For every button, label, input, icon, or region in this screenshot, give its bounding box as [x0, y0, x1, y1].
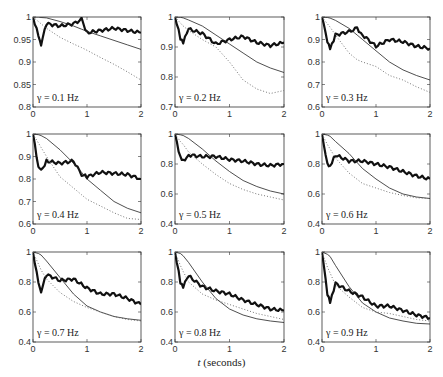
y-tick-label: 0.6: [18, 219, 31, 229]
x-tick-label: 0: [172, 344, 177, 354]
y-tick-label: 0.7: [18, 197, 31, 207]
y-tick-label: 0.8: [18, 174, 31, 184]
x-tick-label: 2: [427, 109, 432, 119]
y-tick-label: 0.4: [18, 337, 31, 347]
y-tick-label: 0.6: [160, 189, 173, 199]
x-tick-label: 0: [172, 226, 177, 236]
y-tick-label: 0.4: [160, 219, 173, 229]
y-tick-label: 0.4: [160, 337, 173, 347]
y-tick-label: 1: [168, 12, 173, 22]
x-tick-label: 0: [30, 226, 35, 236]
y-tick-label: 1: [26, 247, 31, 257]
y-tick-label: 0.9: [18, 57, 31, 67]
y-tick-label: 0.8: [18, 277, 31, 287]
y-tick-label: 0.8: [307, 57, 320, 67]
gamma-label: γ = 0.9 Hz: [325, 327, 368, 338]
y-tick-label: 0.9: [307, 35, 320, 45]
gamma-label: γ = 0.7 Hz: [36, 327, 79, 338]
x-tick-label: 0: [30, 344, 35, 354]
y-tick-label: 0.7: [307, 80, 320, 90]
y-tick-label: 0.6: [307, 189, 320, 199]
subplot-grid: 0120.80.850.90.951γ = 0.1 Hz0120.70.80.9…: [0, 0, 443, 377]
y-tick-label: 0.4: [307, 337, 320, 347]
x-tick-label: 1: [227, 226, 232, 236]
subplot-1: 0120.80.850.90.951γ = 0.1 Hz: [13, 12, 143, 119]
x-axis-label: t (seconds): [0, 356, 443, 368]
subplot-4: 0120.60.70.80.91γ = 0.4 Hz: [18, 129, 143, 236]
y-tick-label: 0.85: [13, 80, 31, 90]
x-tick-label: 0: [319, 226, 324, 236]
y-tick-label: 0.8: [160, 277, 173, 287]
x-tick-label: 2: [138, 226, 143, 236]
x-tick-label: 0: [172, 109, 177, 119]
y-tick-label: 0.6: [18, 307, 31, 317]
y-tick-label: 1: [168, 129, 173, 139]
x-tick-label: 2: [281, 226, 286, 236]
subplot-8: 0120.40.60.81γ = 0.8 Hz: [160, 247, 286, 354]
subplot-7: 0120.40.60.81γ = 0.7 Hz: [18, 247, 143, 354]
subplot-9: 0120.40.60.81γ = 0.9 Hz: [307, 247, 432, 354]
gamma-label: γ = 0.5 Hz: [178, 209, 221, 220]
y-tick-label: 0.9: [160, 42, 173, 52]
figure: 0120.80.850.90.951γ = 0.1 Hz0120.70.80.9…: [0, 0, 443, 377]
y-tick-label: 1: [315, 12, 320, 22]
x-tick-label: 1: [84, 109, 89, 119]
y-tick-label: 0.4: [307, 219, 320, 229]
y-tick-label: 1: [26, 12, 31, 22]
x-tick-label: 2: [427, 344, 432, 354]
y-tick-label: 0.9: [18, 152, 31, 162]
y-tick-label: 0.6: [160, 307, 173, 317]
gamma-label: γ = 0.8 Hz: [178, 327, 221, 338]
y-tick-label: 0.8: [307, 159, 320, 169]
y-tick-label: 0.95: [13, 35, 31, 45]
x-tick-label: 1: [373, 109, 378, 119]
y-tick-label: 1: [315, 247, 320, 257]
y-tick-label: 0.7: [160, 102, 173, 112]
y-tick-label: 0.8: [160, 159, 173, 169]
y-tick-label: 1: [315, 129, 320, 139]
y-tick-label: 0.6: [307, 307, 320, 317]
gamma-label: γ = 0.4 Hz: [36, 209, 79, 220]
x-tick-label: 1: [227, 344, 232, 354]
x-tick-label: 2: [138, 109, 143, 119]
x-tick-label: 2: [281, 109, 286, 119]
x-tick-label: 2: [427, 226, 432, 236]
x-tick-label: 0: [30, 109, 35, 119]
x-tick-label: 0: [319, 109, 324, 119]
x-tick-label: 2: [281, 344, 286, 354]
subplot-2: 0120.70.80.91γ = 0.2 Hz: [160, 12, 286, 119]
x-tick-label: 1: [227, 109, 232, 119]
y-tick-label: 0.8: [160, 72, 173, 82]
y-tick-label: 0.6: [307, 102, 320, 112]
x-tick-label: 2: [138, 344, 143, 354]
subplot-3: 0120.60.70.80.91γ = 0.3 Hz: [307, 12, 432, 119]
y-tick-label: 1: [26, 129, 31, 139]
x-tick-label: 1: [84, 226, 89, 236]
y-tick-label: 0.8: [307, 277, 320, 287]
y-tick-label: 1: [168, 247, 173, 257]
y-tick-label: 0.8: [18, 102, 31, 112]
x-tick-label: 1: [373, 344, 378, 354]
gamma-label: γ = 0.3 Hz: [325, 92, 368, 103]
subplot-5: 0120.40.60.81γ = 0.5 Hz: [160, 129, 286, 236]
x-tick-label: 0: [319, 344, 324, 354]
x-tick-label: 1: [373, 226, 378, 236]
gamma-label: γ = 0.2 Hz: [178, 92, 221, 103]
gamma-label: γ = 0.6 Hz: [325, 209, 368, 220]
gamma-label: γ = 0.1 Hz: [36, 92, 79, 103]
x-axis-unit: (seconds): [201, 356, 246, 368]
subplot-6: 0120.40.60.81γ = 0.6 Hz: [307, 129, 432, 236]
x-tick-label: 1: [84, 344, 89, 354]
